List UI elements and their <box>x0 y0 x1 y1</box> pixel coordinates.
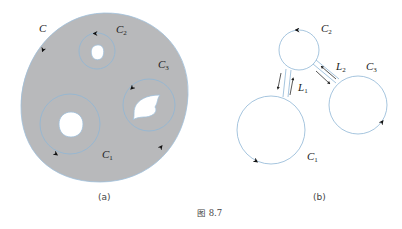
arrow-l1-up-icon <box>290 79 293 95</box>
label-c1: C1 <box>102 148 113 162</box>
panel-b-diagram <box>237 30 387 164</box>
label-c1-b: C1 <box>307 150 318 164</box>
cut-l1-line <box>283 69 286 97</box>
panel-b-label: (b) <box>313 192 326 202</box>
figure-caption: 图 8.7 <box>197 206 222 218</box>
label-c: C <box>39 22 46 34</box>
arrow-l1-down-icon <box>278 73 281 88</box>
figure-canvas <box>0 0 402 229</box>
label-c2-b: C2 <box>321 22 332 36</box>
label-c2: C2 <box>116 23 127 37</box>
contour-c1-b <box>237 96 305 164</box>
label-l1: L1 <box>298 81 308 95</box>
label-l2: L2 <box>336 60 346 74</box>
contour-c3-b <box>329 76 387 134</box>
panel-a-label: (a) <box>98 192 111 202</box>
arrow-l2-out-icon <box>316 71 329 83</box>
label-c3-b: C3 <box>366 60 377 74</box>
label-c3: C3 <box>158 58 169 72</box>
